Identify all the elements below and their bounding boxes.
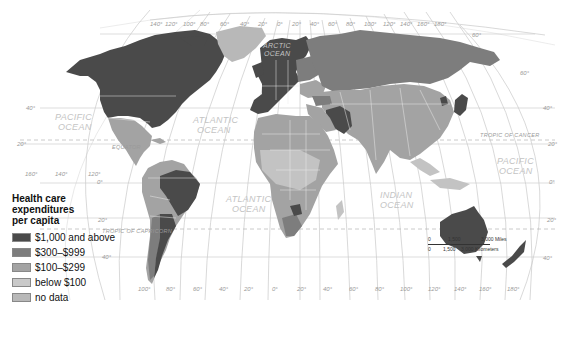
legend-item-1000-above: $1,000 and above [12,230,142,245]
legend-label: $300–$999 [35,247,85,258]
svg-text:60°: 60° [193,286,203,292]
svg-text:140°: 140° [454,286,467,292]
scale-label: 1,500 [443,246,456,252]
svg-text:PACIFICOCEAN: PACIFICOCEAN [55,112,92,132]
scale-miles: 0 1,500 3,000 Miles [428,236,518,243]
svg-text:20°: 20° [16,141,27,147]
svg-text:120°: 120° [383,21,396,27]
svg-text:20°: 20° [291,21,302,27]
svg-text:40°: 40° [310,21,320,27]
longitude-labels-bottom: 100° 80° 60° 40° 20° 0° 20° 40° 60° 80° … [138,286,520,292]
legend-label: $100–$299 [35,262,85,273]
legend-title: Health care expenditures per capita [12,193,142,226]
svg-text:120°: 120° [165,21,178,27]
svg-text:PACIFICOCEAN: PACIFICOCEAN [497,156,534,176]
legend-label: below $100 [35,277,86,288]
svg-text:0°: 0° [272,286,278,292]
svg-text:ATLANTICOCEAN: ATLANTICOCEAN [225,194,271,214]
svg-text:120°: 120° [428,286,441,292]
longitude-labels-top: 140° 120° 100° 80° 60° 40° 20° 0° 20° 40… [150,21,447,27]
legend-swatch [12,233,31,242]
svg-text:EQUATOR: EQUATOR [112,144,141,150]
legend-title-line: Health care [12,193,142,204]
russia [306,30,500,92]
svg-text:100°: 100° [400,286,413,292]
north-america [66,30,226,166]
svg-text:140°: 140° [55,171,68,177]
svg-text:100°: 100° [183,21,196,27]
scale-label: 0 [428,236,431,242]
svg-text:40°: 40° [240,21,250,27]
legend-item-below-100: below $100 [12,275,142,290]
legend-swatch [12,263,31,272]
svg-text:160°: 160° [417,21,430,27]
svg-text:0°: 0° [277,21,283,27]
svg-text:ATLANTICOCEAN: ATLANTICOCEAN [192,115,238,135]
svg-text:160°: 160° [479,286,492,292]
svg-text:40°: 40° [543,105,553,111]
legend-swatch [12,278,31,287]
svg-text:60°: 60° [220,21,230,27]
svg-text:160°: 160° [25,171,38,177]
svg-text:140°: 140° [400,21,413,27]
scale-bar: 0 1,500 3,000 Miles 0 1,500 3,000 Kilome… [428,236,518,253]
south-america [142,160,200,284]
scale-line [428,244,490,245]
svg-text:INDIANOCEAN: INDIANOCEAN [380,190,414,210]
svg-text:60°: 60° [349,286,359,292]
scale-label: 1,500 [448,236,461,242]
svg-text:80°: 80° [200,21,210,27]
svg-text:40°: 40° [26,105,36,111]
scale-label: 3,000 Kilometers [461,246,499,252]
legend: Health care expenditures per capita $1,0… [12,193,142,305]
svg-text:60°: 60° [520,70,530,76]
svg-text:40°: 40° [219,286,229,292]
legend-title-line: expenditures [12,204,142,215]
legend-swatch [12,293,31,302]
scale-label: 0 [428,246,431,252]
svg-text:60°: 60° [472,32,482,38]
svg-text:80°: 80° [375,286,385,292]
scale-label: 3,000 Miles [481,236,507,242]
svg-text:20°: 20° [547,141,558,147]
svg-text:20°: 20° [546,217,557,223]
svg-text:20°: 20° [243,286,254,292]
svg-text:0°: 0° [549,179,555,185]
svg-text:0°: 0° [97,179,103,185]
svg-text:TROPIC OF CANCER: TROPIC OF CANCER [480,132,539,138]
legend-label: $1,000 and above [35,232,115,243]
svg-text:80°: 80° [346,21,356,27]
legend-label: no data [35,292,68,303]
svg-text:80°: 80° [166,286,176,292]
legend-swatch [12,248,31,257]
svg-text:40°: 40° [323,286,333,292]
svg-text:120°: 120° [88,171,101,177]
legend-title-line: per capita [12,215,142,226]
svg-text:40°: 40° [543,255,553,261]
svg-text:ARCTICOCEAN: ARCTICOCEAN [262,42,291,57]
svg-text:20°: 20° [296,286,307,292]
africa [254,114,344,238]
scale-kilometers: 0 1,500 3,000 Kilometers [428,246,518,253]
legend-item-no-data: no data [12,290,142,305]
longitude-labels-left: 160° 140° 120° [25,171,101,177]
svg-text:140°: 140° [150,21,163,27]
svg-text:20°: 20° [257,21,268,27]
svg-text:180°: 180° [434,21,447,27]
svg-text:60°: 60° [328,21,338,27]
svg-text:180°: 180° [507,286,520,292]
legend-item-300-999: $300–$999 [12,245,142,260]
legend-item-100-299: $100–$299 [12,260,142,275]
svg-text:100°: 100° [364,21,377,27]
